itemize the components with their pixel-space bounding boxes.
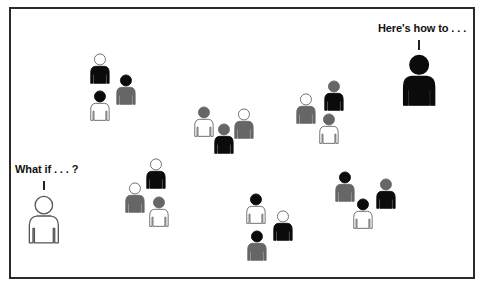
person-icon: [88, 90, 112, 121]
expert-person-icon: [399, 54, 439, 107]
person-icon: [351, 198, 375, 229]
novice-person-icon: [25, 195, 63, 244]
person-icon: [245, 230, 269, 261]
expert-caption-tick: [418, 40, 420, 50]
novice-caption-tick: [43, 181, 45, 190]
person-icon: [114, 74, 138, 105]
person-icon: [294, 93, 318, 124]
person-icon: [144, 158, 168, 189]
person-icon: [212, 123, 236, 154]
person-icon: [317, 113, 341, 144]
person-icon: [123, 182, 147, 213]
person-icon: [25, 195, 63, 244]
person-icon: [271, 210, 295, 241]
person-icon: [244, 193, 268, 224]
person-icon: [399, 54, 439, 107]
person-icon: [374, 178, 398, 209]
diagram-frame: [9, 7, 475, 279]
person-icon: [88, 53, 112, 84]
person-icon: [147, 196, 171, 227]
novice-caption: What if . . . ?: [15, 163, 78, 175]
person-icon: [322, 80, 346, 111]
expert-caption: Here's how to . . .: [378, 22, 466, 34]
